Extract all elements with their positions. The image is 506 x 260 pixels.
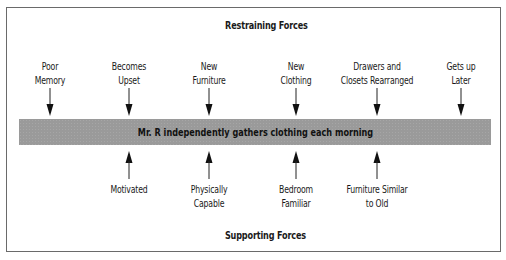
restraining-force-drawers-rearranged: Drawers and Closets Rearranged: [341, 59, 414, 87]
supporting-force-label-line2: Capable: [191, 196, 228, 210]
restraining-force-new-clothing: New Clothing: [281, 59, 312, 87]
arrow-down-icon: [372, 88, 382, 116]
restraining-force-label-line2: Clothing: [281, 73, 312, 87]
arrow-down-icon: [204, 88, 214, 116]
restraining-force-new-furniture: New Furniture: [192, 59, 225, 87]
arrow-up-icon: [204, 151, 214, 179]
restraining-force-becomes-upset: Becomes Upset: [112, 59, 146, 87]
supporting-force-bedroom-familiar: Bedroom Familiar: [279, 182, 313, 210]
central-goal-text: Mr. R independently gathers clothing eac…: [137, 126, 372, 139]
restraining-force-label-line2: Furniture: [192, 73, 225, 87]
restraining-forces-heading: Restraining Forces: [225, 19, 308, 32]
restraining-force-label-line1: Gets up: [447, 59, 476, 73]
restraining-force-label-line2: Upset: [112, 73, 146, 87]
supporting-force-motivated: Motivated: [110, 182, 147, 196]
supporting-force-label-line1: Bedroom: [279, 182, 313, 196]
restraining-force-label-line1: Becomes: [112, 59, 146, 73]
supporting-force-furniture-similar: Furniture Similar to Old: [346, 182, 407, 210]
restraining-force-poor-memory: Poor Memory: [35, 59, 66, 87]
arrow-up-icon: [291, 151, 301, 179]
supporting-force-label-line1: Physically: [191, 182, 228, 196]
arrow-down-icon: [291, 88, 301, 116]
restraining-force-label-line1: Drawers and: [341, 59, 414, 73]
restraining-force-label-line1: New: [192, 59, 225, 73]
supporting-forces-heading: Supporting Forces: [225, 229, 306, 242]
restraining-force-label-line2: Later: [447, 73, 476, 87]
arrow-up-icon: [372, 151, 382, 179]
arrow-down-icon: [456, 88, 466, 116]
restraining-force-label-line2: Memory: [35, 73, 66, 87]
supporting-force-label-line2: Familiar: [279, 196, 313, 210]
supporting-force-label-line1: Furniture Similar: [346, 182, 407, 196]
arrow-down-icon: [45, 88, 55, 116]
supporting-force-label-line1: Motivated: [110, 182, 147, 196]
supporting-force-physically-capable: Physically Capable: [191, 182, 228, 210]
restraining-force-label-line1: Poor: [35, 59, 66, 73]
arrow-up-icon: [124, 151, 134, 179]
restraining-force-gets-up-later: Gets up Later: [447, 59, 476, 87]
central-goal-bar: Mr. R independently gathers clothing eac…: [19, 119, 491, 145]
restraining-force-label-line2: Closets Rearranged: [341, 73, 414, 87]
arrow-down-icon: [124, 88, 134, 116]
restraining-force-label-line1: New: [281, 59, 312, 73]
supporting-force-label-line2: to Old: [346, 196, 407, 210]
